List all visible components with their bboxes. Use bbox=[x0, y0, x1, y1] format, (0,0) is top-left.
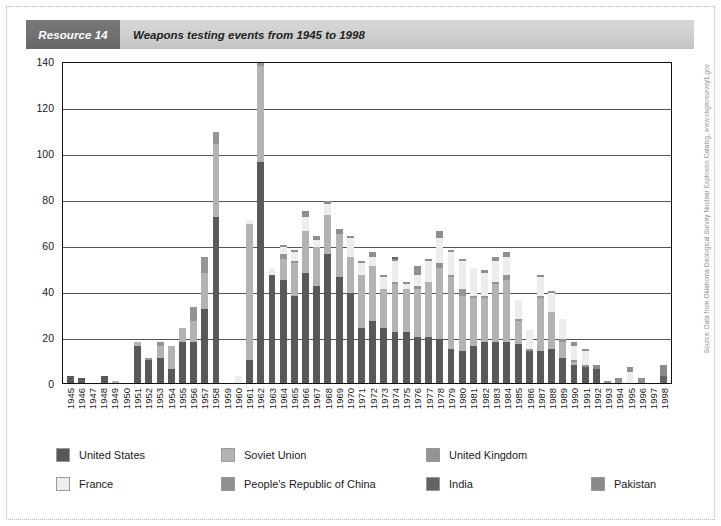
legend-item[interactable]: India bbox=[426, 477, 473, 491]
bar-segment[interactable] bbox=[213, 217, 220, 383]
legend-item[interactable]: Soviet Union bbox=[221, 448, 306, 462]
bar-segment[interactable] bbox=[526, 351, 533, 383]
bar-segment[interactable] bbox=[436, 238, 443, 263]
bar-slot[interactable] bbox=[356, 63, 367, 383]
bar-stack[interactable] bbox=[179, 328, 186, 383]
bar-segment[interactable] bbox=[213, 144, 220, 218]
bar-stack[interactable] bbox=[78, 378, 85, 383]
bar-segment[interactable] bbox=[269, 268, 276, 275]
bar-segment[interactable] bbox=[358, 263, 365, 275]
bar-segment[interactable] bbox=[503, 257, 510, 275]
bar-stack[interactable] bbox=[559, 319, 566, 383]
bar-segment[interactable] bbox=[503, 342, 510, 383]
bar-stack[interactable] bbox=[324, 201, 331, 383]
bar-segment[interactable] bbox=[280, 280, 287, 384]
bar-segment[interactable] bbox=[403, 289, 410, 333]
bar-segment[interactable] bbox=[436, 339, 443, 383]
bar-segment[interactable] bbox=[380, 289, 387, 328]
bar-stack[interactable] bbox=[571, 342, 578, 383]
bar-segment[interactable] bbox=[425, 337, 432, 383]
bar-slot[interactable] bbox=[188, 63, 199, 383]
bar-stack[interactable] bbox=[593, 365, 600, 383]
bar-slot[interactable] bbox=[255, 63, 266, 383]
bar-stack[interactable] bbox=[257, 62, 264, 383]
bar-stack[interactable] bbox=[526, 330, 533, 383]
bar-segment[interactable] bbox=[190, 342, 197, 383]
bar-stack[interactable] bbox=[112, 381, 119, 383]
bar-segment[interactable] bbox=[459, 351, 466, 383]
bar-segment[interactable] bbox=[448, 252, 455, 275]
bar-segment[interactable] bbox=[101, 376, 108, 383]
bar-slot[interactable] bbox=[513, 63, 524, 383]
bar-segment[interactable] bbox=[436, 231, 443, 238]
bar-slot[interactable] bbox=[65, 63, 76, 383]
bar-slot[interactable] bbox=[613, 63, 624, 383]
bar-segment[interactable] bbox=[425, 282, 432, 337]
bar-segment[interactable] bbox=[392, 261, 399, 282]
bar-segment[interactable] bbox=[660, 376, 667, 383]
bar-stack[interactable] bbox=[392, 257, 399, 383]
bar-segment[interactable] bbox=[358, 275, 365, 328]
bar-segment[interactable] bbox=[392, 284, 399, 332]
bar-stack[interactable] bbox=[280, 245, 287, 383]
bar-slot[interactable] bbox=[121, 63, 132, 383]
bar-segment[interactable] bbox=[157, 346, 164, 358]
bar-segment[interactable] bbox=[537, 298, 544, 351]
bar-slot[interactable] bbox=[266, 63, 277, 383]
bar-segment[interactable] bbox=[347, 257, 354, 294]
bar-segment[interactable] bbox=[492, 342, 499, 383]
bar-segment[interactable] bbox=[257, 66, 264, 163]
bar-slot[interactable] bbox=[110, 63, 121, 383]
bar-stack[interactable] bbox=[638, 378, 645, 383]
bar-segment[interactable] bbox=[257, 162, 264, 383]
bar-segment[interactable] bbox=[492, 284, 499, 342]
bar-slot[interactable] bbox=[647, 63, 658, 383]
bar-segment[interactable] bbox=[336, 277, 343, 383]
bar-slot[interactable] bbox=[143, 63, 154, 383]
bar-slot[interactable] bbox=[535, 63, 546, 383]
bar-segment[interactable] bbox=[571, 346, 578, 360]
bar-segment[interactable] bbox=[436, 268, 443, 339]
bar-segment[interactable] bbox=[369, 266, 376, 321]
bar-slot[interactable] bbox=[244, 63, 255, 383]
bar-stack[interactable] bbox=[615, 378, 622, 383]
bar-segment[interactable] bbox=[380, 277, 387, 289]
bar-segment[interactable] bbox=[537, 277, 544, 295]
bar-segment[interactable] bbox=[481, 273, 488, 296]
bar-segment[interactable] bbox=[537, 351, 544, 383]
bar-slot[interactable] bbox=[591, 63, 602, 383]
bar-segment[interactable] bbox=[302, 211, 309, 218]
bar-stack[interactable] bbox=[369, 252, 376, 383]
bar-stack[interactable] bbox=[67, 376, 74, 383]
bar-slot[interactable] bbox=[658, 63, 669, 383]
bar-segment[interactable] bbox=[559, 358, 566, 383]
bar-slot[interactable] bbox=[602, 63, 613, 383]
bar-segment[interactable] bbox=[593, 369, 600, 383]
bar-stack[interactable] bbox=[537, 275, 544, 383]
bar-stack[interactable] bbox=[347, 236, 354, 383]
bar-slot[interactable] bbox=[445, 63, 456, 383]
bar-stack[interactable] bbox=[190, 307, 197, 383]
bar-slot[interactable] bbox=[401, 63, 412, 383]
bar-slot[interactable] bbox=[300, 63, 311, 383]
bar-stack[interactable] bbox=[492, 257, 499, 383]
bar-segment[interactable] bbox=[313, 240, 320, 247]
bar-slot[interactable] bbox=[278, 63, 289, 383]
bar-segment[interactable] bbox=[324, 254, 331, 383]
bar-segment[interactable] bbox=[638, 378, 645, 383]
bar-slot[interactable] bbox=[87, 63, 98, 383]
bar-stack[interactable] bbox=[459, 259, 466, 383]
bar-segment[interactable] bbox=[515, 300, 522, 318]
bar-stack[interactable] bbox=[358, 261, 365, 383]
bar-segment[interactable] bbox=[481, 298, 488, 342]
bar-stack[interactable] bbox=[414, 266, 421, 383]
bar-slot[interactable] bbox=[412, 63, 423, 383]
bar-segment[interactable] bbox=[67, 376, 74, 383]
bar-segment[interactable] bbox=[201, 273, 208, 310]
bar-segment[interactable] bbox=[380, 328, 387, 383]
bar-stack[interactable] bbox=[515, 300, 522, 383]
bar-slot[interactable] bbox=[99, 63, 110, 383]
bar-segment[interactable] bbox=[515, 344, 522, 383]
bar-stack[interactable] bbox=[269, 268, 276, 383]
legend-item[interactable]: People's Republic of China bbox=[221, 477, 376, 491]
